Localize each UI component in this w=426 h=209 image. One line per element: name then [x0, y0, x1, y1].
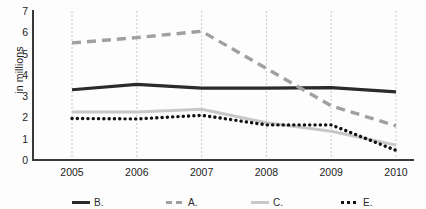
legend-item[interactable]: B. — [72, 196, 103, 209]
legend-label: B. — [94, 197, 103, 208]
legend-swatch-icon — [72, 201, 90, 204]
legend-item[interactable]: C. — [251, 196, 283, 209]
legend-label: E. — [363, 197, 372, 208]
chart-legend: B.A.C.E. — [0, 196, 426, 209]
legend-label: C. — [273, 197, 283, 208]
series-line — [72, 115, 396, 150]
legend-swatch-icon — [166, 201, 184, 204]
legend-item[interactable]: E. — [341, 196, 372, 209]
legend-swatch-icon — [251, 201, 269, 204]
line-chart: in millions 76543210 2005200620072008200… — [0, 0, 426, 209]
plot-area — [0, 0, 426, 209]
legend-item[interactable]: A. — [166, 196, 197, 209]
legend-swatch-icon — [341, 201, 359, 204]
series-line — [72, 84, 396, 91]
series-line — [72, 109, 396, 145]
legend-label: A. — [188, 197, 197, 208]
